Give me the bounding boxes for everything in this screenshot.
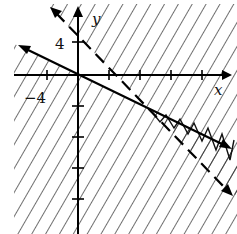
x-tick-label-neg4: −4 (24, 89, 46, 107)
x-axis-label: x (214, 81, 223, 99)
inequality-graph: 4 −4 y x (0, 0, 237, 234)
y-tick-label-4: 4 (55, 35, 65, 53)
shaded-regions (0, 0, 237, 234)
y-axis-label: y (91, 10, 101, 28)
